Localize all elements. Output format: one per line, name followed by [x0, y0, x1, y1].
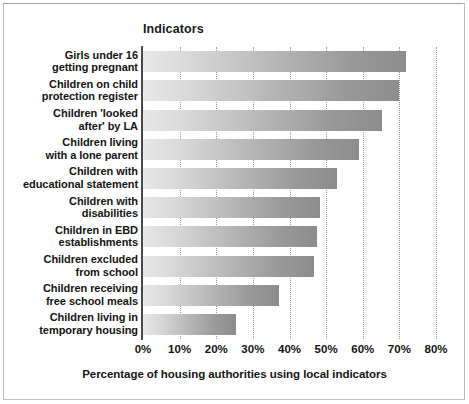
- bar: [143, 110, 382, 131]
- x-tick-80: 80%: [424, 343, 447, 355]
- bar-row: [143, 139, 436, 160]
- bar-row: [143, 226, 436, 247]
- bar: [143, 226, 317, 247]
- category-label: Children receivingfree school meals: [2, 282, 138, 307]
- bar: [143, 197, 320, 218]
- category-label: Children 'lookedafter' by LA: [2, 107, 138, 132]
- bar-row: [143, 285, 436, 306]
- x-axis-tick-labels: 0%10%20%30%40%50%60%70%80%: [0, 343, 469, 361]
- x-axis-title: Percentage of housing authorities using …: [0, 368, 469, 380]
- bar-row: [143, 197, 436, 218]
- plot-area: [143, 47, 436, 339]
- category-label: Children witheducational statement: [2, 165, 138, 190]
- bar-row: [143, 256, 436, 277]
- x-tick-50: 50%: [315, 343, 338, 355]
- bar-row: [143, 80, 436, 101]
- x-tick-70: 70%: [388, 343, 411, 355]
- category-label: Girls under 16getting pregnant: [2, 49, 138, 74]
- bar: [143, 256, 314, 277]
- category-label: Children in EBDestablishments: [2, 224, 138, 249]
- x-tick-60: 60%: [351, 343, 374, 355]
- chart-title: Indicators: [143, 22, 204, 36]
- bar: [143, 51, 406, 72]
- category-axis-labels: Girls under 16getting pregnantChildren o…: [0, 47, 138, 339]
- gridline-80: [436, 47, 437, 339]
- bar-chart: Indicators Girls under 16getting pregnan…: [0, 0, 469, 404]
- x-tick-30: 30%: [241, 343, 264, 355]
- x-tick-20: 20%: [205, 343, 228, 355]
- category-label: Children on childprotection register: [2, 78, 138, 103]
- category-label: Children withdisabilities: [2, 195, 138, 220]
- bar-row: [143, 51, 436, 72]
- bar: [143, 80, 399, 101]
- category-label: Children excludedfrom school: [2, 253, 138, 278]
- category-label: Children living intemporary housing: [2, 311, 138, 336]
- bar-row: [143, 314, 436, 335]
- bar: [143, 139, 359, 160]
- bar: [143, 314, 236, 335]
- bar: [143, 168, 337, 189]
- bar-row: [143, 110, 436, 131]
- x-tick-10: 10%: [168, 343, 191, 355]
- category-label: Children livingwith a lone parent: [2, 136, 138, 161]
- bar: [143, 285, 279, 306]
- x-tick-40: 40%: [278, 343, 301, 355]
- bar-row: [143, 168, 436, 189]
- x-tick-0: 0%: [135, 343, 152, 355]
